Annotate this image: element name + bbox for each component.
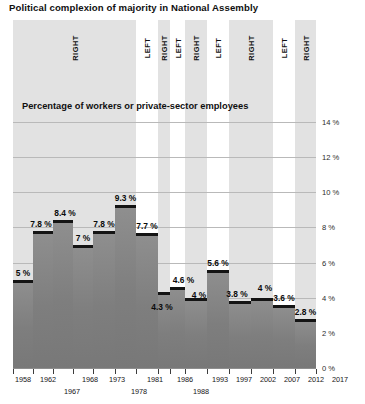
band-label: RIGHT: [301, 35, 310, 61]
x-axis-label-1962: 1962: [40, 375, 56, 384]
x-axis-label-1968: 1968: [82, 375, 98, 384]
x-axis-label-2007: 2007: [284, 375, 300, 384]
y-axis-tick-0: 0 %: [322, 364, 335, 373]
bar-cap-1986: [158, 292, 170, 295]
bar-2012: [273, 305, 295, 368]
x-axis-tick-2: [53, 369, 54, 374]
band-label: LEFT: [173, 38, 182, 58]
bar-1981: [136, 233, 158, 368]
bar-1988: [170, 287, 185, 368]
chart-container: Political complexion of majority in Nati…: [0, 0, 365, 404]
band-label: LEFT: [214, 38, 223, 58]
bar-cap-1997: [207, 270, 229, 273]
x-axis-tick-4: [93, 369, 94, 374]
bar-cap-1988: [170, 287, 185, 290]
bar-cap-1968: [73, 245, 93, 248]
x-axis-label-1978: 1978: [131, 387, 147, 396]
x-axis-label-2012: 2012: [308, 375, 324, 384]
bar-1978: [115, 205, 136, 368]
bar-value-1973: 7.8 %: [93, 219, 114, 229]
chart-title: Political complexion of majority in Nati…: [9, 2, 339, 13]
chart-subtitle: Percentage of workers or private-sector …: [22, 101, 248, 111]
x-axis-label-1986: 1986: [177, 375, 193, 384]
bar-cap-2002: [229, 301, 251, 304]
x-axis-label-1981: 1981: [147, 375, 163, 384]
bar-1967: [53, 220, 73, 368]
y-axis-tick-6: 6 %: [322, 259, 335, 268]
bar-value-1968: 7 %: [76, 233, 90, 243]
bar-1962: [33, 231, 53, 368]
band-label: RIGHT: [247, 35, 256, 61]
y-axis-tick-8: 8 %: [322, 223, 335, 232]
y-axis-tick-14: 14 %: [322, 118, 339, 127]
bar-value-1958: 5 %: [16, 268, 30, 278]
x-axis-label-1967: 1967: [64, 387, 80, 396]
bar-value-2012: 3.6 %: [273, 293, 294, 303]
x-axis-tick-3: [73, 369, 74, 374]
x-axis-label-1988: 1988: [193, 387, 209, 396]
bar-1997: [207, 270, 229, 368]
bar-cap-2012: [273, 305, 295, 308]
x-axis-tick-0: [13, 369, 14, 374]
x-axis-tick-9: [185, 369, 186, 374]
x-axis-label-1973: 1973: [109, 375, 125, 384]
bar-cap-2007: [251, 298, 273, 301]
bar-cap-1978: [115, 205, 136, 208]
x-axis-label-1993: 1993: [212, 375, 228, 384]
bar-value-2002: 3.8 %: [226, 289, 247, 299]
y-axis-tick-4: 4 %: [322, 294, 335, 303]
bar-value-1993: 4 %: [192, 290, 206, 300]
bar-value-1988: 4.6 %: [173, 275, 194, 285]
bar-1993: [185, 298, 207, 368]
bar-cap-1981: [136, 233, 158, 236]
x-axis-tick-15: [316, 369, 317, 374]
plot-area: RIGHTLEFTRIGHTLEFTRIGHTLEFTRIGHTLEFTRIGH…: [13, 20, 316, 368]
bar-value-1962: 7.8 %: [30, 219, 51, 229]
band-label: RIGHT: [192, 35, 201, 61]
y-axis-tick-2: 2 %: [322, 329, 335, 338]
bar-1958: [13, 280, 33, 368]
y-axis-tick-10: 10 %: [322, 188, 339, 197]
bar-2007: [251, 298, 273, 368]
bar-value-1978: 9.3 %: [115, 193, 136, 203]
bar-1973: [93, 231, 115, 368]
bar-cap-1967: [53, 220, 73, 223]
gridline-12pct: [13, 157, 316, 158]
x-axis-label-1997: 1997: [236, 375, 252, 384]
x-axis-tick-6: [136, 369, 137, 374]
bar-value-1981: 7.7 %: [136, 221, 157, 231]
x-axis-tick-10: [207, 369, 208, 374]
band-label: LEFT: [143, 38, 152, 58]
bar-value-1997: 5.6 %: [207, 258, 228, 268]
x-axis-tick-14: [295, 369, 296, 374]
x-axis-tick-5: [115, 369, 116, 374]
x-axis-tick-7: [158, 369, 159, 374]
x-axis-label-2017: 2017: [332, 375, 348, 384]
gridline-10pct: [13, 192, 316, 193]
gridline-14pct: [13, 122, 316, 123]
bar-1968: [73, 245, 93, 368]
x-axis-label-2002: 2002: [260, 375, 276, 384]
bar-cap-2017: [295, 319, 316, 322]
bar-cap-1958: [13, 280, 33, 283]
x-axis-tick-13: [273, 369, 274, 374]
band-label: RIGHT: [70, 35, 79, 61]
bar-2017: [295, 319, 316, 368]
x-axis-tick-11: [229, 369, 230, 374]
x-axis-tick-8: [170, 369, 171, 374]
x-axis-line: [13, 368, 316, 369]
bar-value-1967: 8.4 %: [54, 208, 75, 218]
x-axis-tick-12: [251, 369, 252, 374]
band-label: LEFT: [280, 38, 289, 58]
bar-cap-1973: [93, 231, 115, 234]
x-axis-tick-1: [33, 369, 34, 374]
x-axis-label-1958: 1958: [15, 375, 31, 384]
bar-2002: [229, 301, 251, 368]
y-axis-tick-12: 12 %: [322, 153, 339, 162]
bar-value-1986: 4.3 %: [151, 302, 172, 312]
band-label: RIGHT: [160, 35, 169, 61]
bar-cap-1962: [33, 231, 53, 234]
bar-value-2017: 2.8 %: [295, 307, 316, 317]
bar-value-2007: 4 %: [258, 283, 272, 293]
